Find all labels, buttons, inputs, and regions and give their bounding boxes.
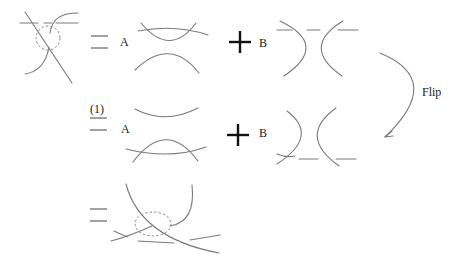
coefficient-a-2: A [121,122,130,136]
equals-sign-3 [90,209,107,221]
coefficient-a-1: A [120,35,129,49]
rhs-crossing-diagram [111,184,220,253]
equation-reference: (1) [90,102,104,116]
flip-arrow [380,53,414,137]
plus-sign-1 [229,31,251,53]
equals-sign-1 [91,36,108,48]
plus-sign-2 [227,124,249,146]
term-a-picture-1 [135,23,208,73]
term-a-picture-2 [126,108,206,162]
dashed-circle-bottom [135,212,171,236]
equals-sign-2 [90,118,107,130]
term-b-picture-2 [277,108,356,166]
term-b-picture-1 [277,21,358,76]
coefficient-b-1: B [259,36,267,50]
coefficient-b-2: B [259,126,267,140]
lhs-crossing-diagram [20,12,78,83]
skein-diagram: A B Flip (1) A B [0,0,461,267]
flip-label: Flip [422,85,441,99]
